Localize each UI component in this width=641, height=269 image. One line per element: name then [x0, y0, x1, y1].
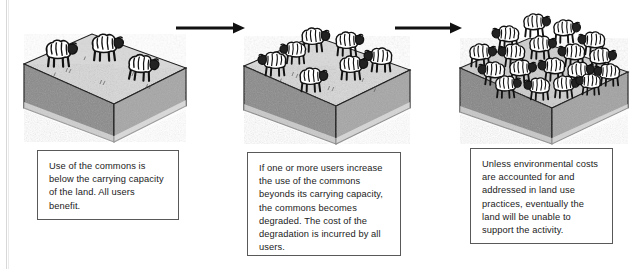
panel-1-illustration [14, 18, 194, 144]
caption-text-3: Unless environmental costs are accounted… [482, 158, 602, 237]
scan-edge-line-secondary [8, 0, 9, 269]
figure-canvas: Use of the commons is below the carrying… [0, 0, 641, 269]
scan-edge-line [6, 0, 7, 269]
caption-box-2: If one or more users increase the use of… [247, 152, 401, 256]
caption-text-2: If one or more users increase the use of… [259, 162, 390, 254]
panel-2-illustration [232, 18, 418, 146]
panel-3-illustration [446, 12, 636, 146]
caption-text-1: Use of the commons is below the carrying… [49, 160, 168, 213]
land-block-3 [446, 12, 636, 146]
land-block-2 [232, 18, 418, 146]
caption-box-1: Use of the commons is below the carrying… [37, 150, 179, 220]
caption-box-3: Unless environmental costs are accounted… [470, 148, 613, 244]
land-block-1 [14, 18, 194, 144]
